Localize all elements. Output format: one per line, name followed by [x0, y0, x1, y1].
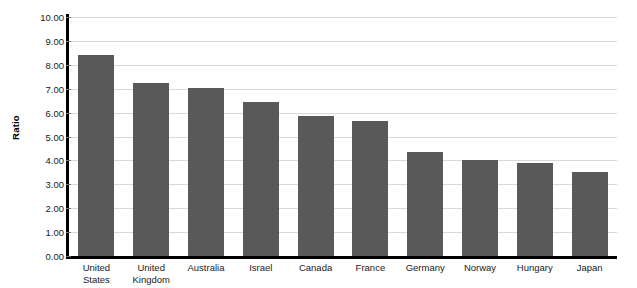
bar	[298, 116, 334, 256]
bar	[188, 88, 224, 256]
x-axis-tick-label: Canada	[288, 262, 343, 274]
y-axis-tick	[66, 184, 71, 185]
y-axis-tick	[66, 65, 71, 66]
bar	[517, 163, 553, 256]
bar	[352, 121, 388, 256]
x-axis-tick-label: Germany	[398, 262, 453, 274]
y-axis-tick	[66, 41, 71, 42]
y-axis-tick	[66, 17, 71, 18]
bar	[572, 172, 608, 256]
gridline	[69, 17, 617, 18]
y-axis-tick	[66, 113, 71, 114]
y-axis-tick-label: 3.00	[2, 179, 64, 190]
y-axis-tick-label: 10.00	[2, 12, 64, 23]
y-axis-tick-labels: 10.009.008.007.006.005.004.003.002.001.0…	[0, 0, 64, 288]
x-axis-tick-label: Australia	[179, 262, 234, 274]
bar	[407, 152, 443, 256]
x-axis-line	[66, 256, 617, 259]
bar	[462, 160, 498, 256]
bar	[243, 102, 279, 256]
y-axis-tick-label: 8.00	[2, 59, 64, 70]
plot-area	[69, 17, 617, 256]
bar-chart: — ——— —— ————— ——— Ratio 10.009.008.007.…	[0, 0, 637, 288]
y-axis-tick	[66, 232, 71, 233]
x-axis-tick-label: Norway	[453, 262, 508, 274]
y-axis-tick-label: 2.00	[2, 203, 64, 214]
bar	[133, 83, 169, 256]
x-axis-tick-label: Israel	[233, 262, 288, 274]
y-axis-tick	[66, 137, 71, 138]
y-axis-tick-label: 7.00	[2, 83, 64, 94]
x-axis-tick-label: United States	[69, 262, 124, 285]
chart-title-cropped: — ——— —— ————— ———	[92, 0, 302, 4]
y-axis-tick-label: 9.00	[2, 35, 64, 46]
x-axis-tick-label: United Kingdom	[124, 262, 179, 285]
y-axis-tick-label: 1.00	[2, 227, 64, 238]
x-axis-tick-label: Japan	[562, 262, 617, 274]
bar	[78, 55, 114, 256]
x-axis-tick-label: Hungary	[507, 262, 562, 274]
y-axis-tick-label: 5.00	[2, 131, 64, 142]
gridline	[69, 65, 617, 66]
y-axis-tick-label: 0.00	[2, 251, 64, 262]
gridline	[69, 41, 617, 42]
y-axis-tick-label: 4.00	[2, 155, 64, 166]
y-axis-tick	[66, 208, 71, 209]
x-axis-tick-label: France	[343, 262, 398, 274]
y-axis-tick-label: 6.00	[2, 107, 64, 118]
y-axis-tick	[66, 256, 71, 257]
y-axis-tick	[66, 160, 71, 161]
y-axis-tick	[66, 89, 71, 90]
